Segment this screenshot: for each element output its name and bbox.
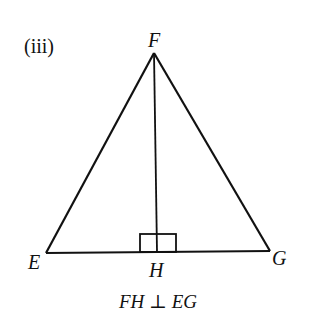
vertex-label-f: F	[148, 30, 160, 50]
segment-fe	[46, 53, 154, 253]
caption: FH ⊥ EG	[119, 292, 197, 311]
vertex-label-h: H	[149, 260, 163, 280]
segment-fh	[154, 53, 157, 252]
part-label: (iii)	[24, 36, 54, 56]
right-angle-marker	[140, 234, 176, 252]
segment-fg	[154, 53, 270, 251]
vertex-label-g: G	[272, 248, 286, 268]
vertex-label-e: E	[28, 252, 40, 272]
